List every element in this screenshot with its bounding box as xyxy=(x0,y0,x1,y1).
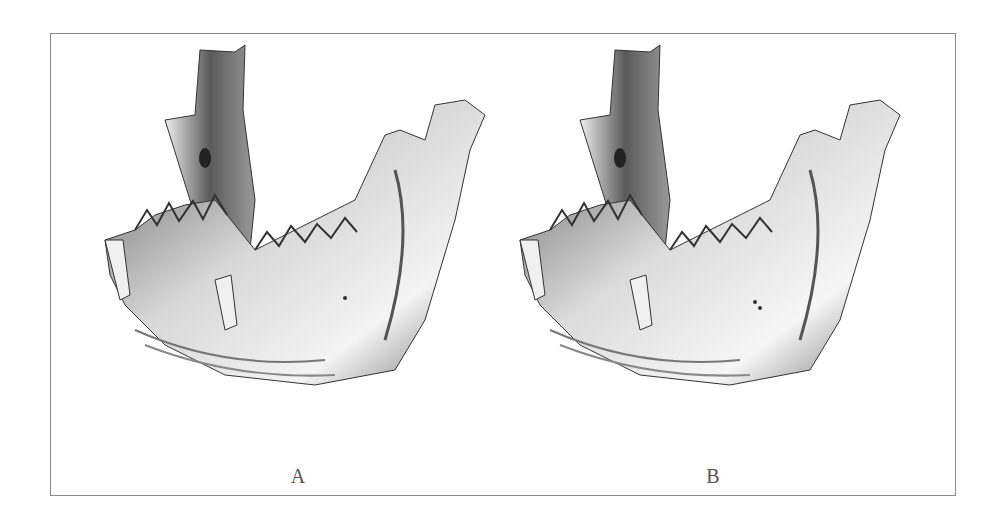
mandible-render-a xyxy=(95,40,515,440)
panel-label-a: A xyxy=(291,465,305,488)
panel-a-image xyxy=(95,40,515,440)
panel-b-image xyxy=(510,40,930,440)
panel-label-b: B xyxy=(706,465,719,488)
mandible-render-b xyxy=(510,40,930,440)
